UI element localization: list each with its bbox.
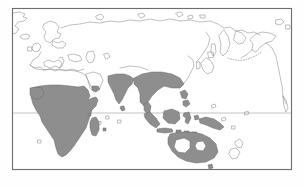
world-map-svg	[0, 0, 304, 187]
region-mascarene-island	[103, 128, 106, 131]
region-tasmania	[208, 164, 213, 169]
region-madagascar	[90, 117, 99, 136]
region-java	[157, 128, 173, 133]
distribution-map-figure	[0, 0, 304, 187]
region-moluccas	[194, 115, 199, 120]
